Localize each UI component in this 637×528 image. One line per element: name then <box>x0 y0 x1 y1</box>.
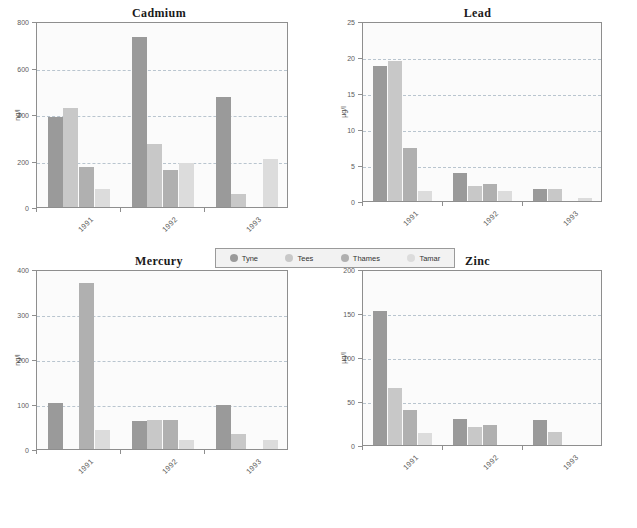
gridline <box>363 359 601 360</box>
legend-item-label: Thames <box>353 254 380 263</box>
bar-tamar-1992 <box>498 191 512 201</box>
y-axis-tick-label: 10 <box>318 127 355 134</box>
bar-tamar-1993 <box>578 198 592 201</box>
y-axis-tick-label: 0 <box>0 447 29 454</box>
x-axis-tick-label: 1993 <box>561 209 580 228</box>
y-axis-tick-label: 100 <box>318 355 355 362</box>
bar-tyne-1991 <box>48 403 63 449</box>
legend-item-label: Tees <box>297 254 313 263</box>
legend-swatch-icon <box>230 254 238 262</box>
y-axis-tick-label: 600 <box>0 65 29 72</box>
y-axis-tick-mark <box>358 314 362 315</box>
gridline <box>363 315 601 316</box>
y-axis-label: µg/l <box>340 343 347 373</box>
legend-swatch-icon <box>341 254 349 262</box>
chart-title: Cadmium <box>0 6 318 21</box>
x-axis-tick-label: 1993 <box>245 457 264 476</box>
x-axis-tick-label: 1992 <box>481 453 500 472</box>
x-axis-tick-label: 1991 <box>401 453 420 472</box>
bar-tyne-1991 <box>373 311 387 445</box>
bar-thames-1991 <box>403 410 417 445</box>
bar-tyne-1993 <box>533 420 547 445</box>
y-axis-tick-mark <box>358 358 362 359</box>
x-axis-tick-mark <box>36 208 37 212</box>
y-axis-tick-label: 50 <box>318 399 355 406</box>
y-axis-tick-mark <box>358 270 362 271</box>
x-axis-tick-mark <box>362 446 363 450</box>
x-axis-tick-mark <box>120 208 121 212</box>
bar-tyne-1992 <box>453 173 467 201</box>
bar-tamar-1993 <box>263 159 278 207</box>
bar-thames-1991 <box>79 283 94 449</box>
bar-tees-1991 <box>388 61 402 201</box>
chart-title: Lead <box>318 6 637 21</box>
y-axis-label: ng/l <box>14 345 21 375</box>
y-axis-tick-label: 100 <box>0 402 29 409</box>
y-axis-tick-mark <box>32 162 36 163</box>
legend-item-label: Tyne <box>242 254 258 263</box>
bar-tyne-1992 <box>132 37 147 207</box>
y-axis-tick-label: 300 <box>0 312 29 319</box>
x-axis-tick-label: 1992 <box>161 215 180 234</box>
gridline <box>37 70 287 71</box>
plot-area <box>362 270 602 446</box>
y-axis-tick-mark <box>358 94 362 95</box>
gridline <box>37 316 287 317</box>
bar-tyne-1993 <box>533 189 547 201</box>
chart-panel-cadmium: Cadmium0200400600800ng/l199119921993 <box>0 0 318 248</box>
plot-area <box>36 270 288 450</box>
gridline <box>37 406 287 407</box>
bar-tees-1993 <box>231 434 246 449</box>
chart-panel-mercury: Mercury0100200300400ng/l199119921993 <box>0 248 318 528</box>
y-axis-tick-label: 20 <box>318 55 355 62</box>
x-axis-tick-label: 1991 <box>77 215 96 234</box>
bar-tyne-1993 <box>216 97 231 207</box>
legend-item-thames: Thames <box>341 254 380 263</box>
bar-tamar-1993 <box>263 440 278 449</box>
bar-tees-1992 <box>468 427 482 445</box>
legend-item-tees: Tees <box>285 254 313 263</box>
y-axis-tick-label: 400 <box>0 267 29 274</box>
y-axis-tick-label: 0 <box>318 199 355 206</box>
bar-thames-1991 <box>403 148 417 201</box>
x-axis-tick-mark <box>36 450 37 454</box>
x-axis-tick-label: 1991 <box>401 209 420 228</box>
x-axis-tick-label: 1993 <box>561 453 580 472</box>
bar-tees-1992 <box>147 420 162 449</box>
y-axis-tick-label: 150 <box>318 311 355 318</box>
y-axis-tick-mark <box>358 166 362 167</box>
y-axis-tick-mark <box>358 402 362 403</box>
y-axis-tick-label: 0 <box>0 205 29 212</box>
y-axis-tick-mark <box>358 58 362 59</box>
y-axis-tick-mark <box>32 315 36 316</box>
x-axis-tick-mark <box>442 446 443 450</box>
chart-panel-lead: Lead0510152025µg/l199119921993 <box>318 0 637 248</box>
bar-tyne-1992 <box>453 419 467 445</box>
x-axis-tick-label: 1993 <box>245 215 264 234</box>
bar-thames-1992 <box>163 170 178 207</box>
bar-tyne-1991 <box>373 66 387 201</box>
bar-tamar-1991 <box>418 191 432 201</box>
bar-thames-1992 <box>163 420 178 449</box>
bar-tamar-1991 <box>95 189 110 207</box>
bar-tamar-1992 <box>179 440 194 449</box>
legend-item-tamar: Tamar <box>407 254 440 263</box>
y-axis-tick-mark <box>32 69 36 70</box>
y-axis-tick-label: 15 <box>318 91 355 98</box>
x-axis-tick-label: 1992 <box>481 209 500 228</box>
bar-tees-1991 <box>388 388 402 445</box>
x-axis-tick-label: 1992 <box>161 457 180 476</box>
y-axis-tick-mark <box>32 22 36 23</box>
x-axis-tick-mark <box>442 202 443 206</box>
chart-panel-zinc: Zinc050100150200µg/l199119921993 <box>318 248 637 528</box>
y-axis-tick-mark <box>32 270 36 271</box>
bar-tees-1993 <box>548 432 562 445</box>
bar-tyne-1991 <box>48 117 63 207</box>
x-axis-tick-mark <box>362 202 363 206</box>
bar-tees-1991 <box>63 108 78 208</box>
bar-thames-1992 <box>483 184 497 201</box>
bar-tees-1992 <box>468 186 482 201</box>
legend-item-tyne: Tyne <box>230 254 258 263</box>
y-axis-tick-label: 800 <box>0 19 29 26</box>
legend-swatch-icon <box>285 254 293 262</box>
